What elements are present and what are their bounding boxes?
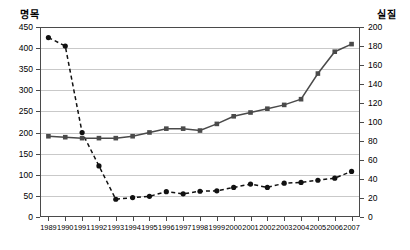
y-axis-left-tick-label: 450 — [5, 23, 33, 32]
y-axis-left-tick-label: 400 — [5, 44, 33, 53]
gridline — [41, 90, 359, 91]
x-axis-tick-label: 1991 — [74, 224, 90, 231]
x-axis-tick-mark — [318, 217, 319, 221]
gridline — [41, 154, 359, 155]
y-axis-right-tick-label: 0 — [368, 213, 396, 222]
y-axis-left-tick-label: 100 — [5, 171, 33, 180]
y-axis-right-tick-mark — [360, 179, 364, 180]
y-axis-right-tick-mark — [360, 103, 364, 104]
y-axis-left-tick-mark — [36, 48, 40, 49]
x-axis-tick-label: 2001 — [242, 224, 258, 231]
x-axis-tick-mark — [284, 217, 285, 221]
y-axis-left-tick-label: 300 — [5, 86, 33, 95]
y-axis-right-tick-label: 200 — [368, 23, 396, 32]
x-axis-tick-label: 1989 — [40, 224, 56, 231]
y-axis-right-tick-mark — [360, 84, 364, 85]
y-axis-right-tick-mark — [360, 198, 364, 199]
y-axis-left-tick-label: 50 — [5, 192, 33, 201]
gridline — [41, 196, 359, 197]
x-axis-tick-label: 2007 — [343, 224, 359, 231]
y-axis-left-tick-mark — [36, 154, 40, 155]
x-axis-tick-mark — [234, 217, 235, 221]
right-axis-title: 실질 — [377, 6, 396, 21]
x-axis-tick-mark — [99, 217, 100, 221]
x-axis-tick-label: 2000 — [225, 224, 241, 231]
x-axis-tick-label: 2002 — [259, 224, 275, 231]
y-axis-right-tick-mark — [360, 217, 364, 218]
y-axis-left-tick-mark — [36, 27, 40, 28]
chart-container: 명목 실질 0501001502002503003504004500204060… — [0, 0, 410, 250]
y-axis-left-tick-label: 0 — [5, 213, 33, 222]
x-axis-tick-mark — [149, 217, 150, 221]
x-axis-tick-label: 1992 — [91, 224, 107, 231]
x-axis-tick-mark — [301, 217, 302, 221]
x-axis-tick-mark — [82, 217, 83, 221]
x-axis-tick-label: 1994 — [124, 224, 140, 231]
y-axis-left-tick-mark — [36, 133, 40, 134]
y-axis-right-tick-mark — [360, 141, 364, 142]
x-axis-tick-label: 2005 — [310, 224, 326, 231]
y-axis-right-tick-label: 120 — [368, 99, 396, 108]
y-axis-right-tick-mark — [360, 65, 364, 66]
gridline — [41, 48, 359, 49]
x-axis-tick-label: 1993 — [108, 224, 124, 231]
x-axis-tick-label: 2004 — [293, 224, 309, 231]
x-axis-tick-label: 1999 — [209, 224, 225, 231]
gridline — [41, 175, 359, 176]
x-axis-tick-label: 1998 — [192, 224, 208, 231]
x-axis-tick-mark — [166, 217, 167, 221]
y-axis-right-tick-label: 140 — [368, 80, 396, 89]
x-axis-tick-mark — [267, 217, 268, 221]
y-axis-left-tick-label: 150 — [5, 150, 33, 159]
x-axis-tick-label: 1990 — [57, 224, 73, 231]
y-axis-left-tick-mark — [36, 111, 40, 112]
x-axis-tick-mark — [183, 217, 184, 221]
x-axis-tick-mark — [200, 217, 201, 221]
x-axis-tick-mark — [335, 217, 336, 221]
y-axis-right-tick-label: 20 — [368, 194, 396, 203]
x-axis-tick-mark — [48, 217, 49, 221]
y-axis-right-tick-mark — [360, 160, 364, 161]
x-axis-tick-label: 2006 — [327, 224, 343, 231]
x-axis-tick-mark — [352, 217, 353, 221]
y-axis-right-tick-label: 100 — [368, 118, 396, 127]
y-axis-left-tick-label: 350 — [5, 65, 33, 74]
gridline — [41, 69, 359, 70]
left-axis-title: 명목 — [20, 6, 39, 21]
y-axis-right-tick-label: 80 — [368, 137, 396, 146]
gridline — [41, 111, 359, 112]
x-axis-tick-mark — [251, 217, 252, 221]
x-axis-tick-mark — [133, 217, 134, 221]
x-axis-tick-label: 2003 — [276, 224, 292, 231]
y-axis-left-tick-label: 200 — [5, 129, 33, 138]
gridline — [41, 27, 359, 28]
x-axis-tick-mark — [116, 217, 117, 221]
y-axis-right-tick-mark — [360, 46, 364, 47]
y-axis-left-tick-mark — [36, 69, 40, 70]
y-axis-left-tick-label: 250 — [5, 107, 33, 116]
y-axis-left-tick-mark — [36, 217, 40, 218]
y-axis-right-tick-mark — [360, 122, 364, 123]
y-axis-right-tick-label: 180 — [368, 42, 396, 51]
y-axis-right-tick-label: 60 — [368, 156, 396, 165]
y-axis-left-tick-mark — [36, 90, 40, 91]
x-axis-tick-label: 1995 — [141, 224, 157, 231]
x-axis-tick-mark — [217, 217, 218, 221]
x-axis-tick-mark — [65, 217, 66, 221]
y-axis-left-tick-mark — [36, 196, 40, 197]
plot-area — [40, 27, 360, 217]
x-axis-tick-label: 1997 — [175, 224, 191, 231]
gridline — [41, 133, 359, 134]
y-axis-right-tick-mark — [360, 27, 364, 28]
x-axis-tick-label: 1996 — [158, 224, 174, 231]
y-axis-right-tick-label: 160 — [368, 61, 396, 70]
y-axis-right-tick-label: 40 — [368, 175, 396, 184]
y-axis-left-tick-mark — [36, 175, 40, 176]
